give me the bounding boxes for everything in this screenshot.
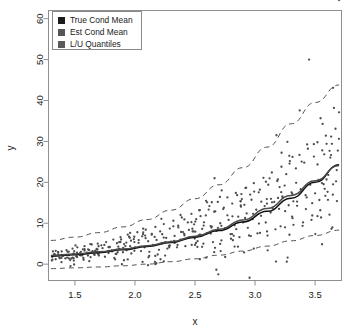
- scatter-point: [89, 243, 91, 245]
- scatter-point: [163, 223, 165, 225]
- scatter-point: [235, 192, 237, 194]
- scatter-point: [271, 171, 273, 173]
- scatter-point: [88, 249, 90, 251]
- scatter-point: [172, 220, 174, 222]
- scatter-point: [266, 202, 268, 204]
- x-tick-label: 2.5: [188, 289, 201, 300]
- scatter-point: [260, 215, 262, 217]
- scatter-point: [122, 251, 124, 253]
- scatter-point: [227, 219, 229, 221]
- scatter-point: [275, 260, 277, 262]
- scatter-point: [233, 235, 235, 237]
- scatter-point: [97, 245, 99, 247]
- scatter-point: [176, 244, 178, 246]
- scatter-point: [137, 242, 139, 244]
- scatter-point: [195, 218, 197, 220]
- scatter-point: [142, 227, 144, 229]
- scatter-point: [71, 247, 73, 249]
- scatter-point: [264, 205, 266, 207]
- scatter-point: [237, 216, 239, 218]
- scatter-point: [133, 250, 135, 252]
- y-tick-label: 40: [34, 95, 45, 106]
- scatter-point: [195, 242, 197, 244]
- y-tick-label: 0: [34, 261, 45, 266]
- scatter-point: [163, 236, 165, 238]
- scatter-point: [141, 235, 143, 237]
- scatter-point: [147, 240, 149, 242]
- scatter-point: [190, 221, 192, 223]
- scatter-point: [119, 236, 121, 238]
- scatter-point: [55, 250, 57, 252]
- x-tick-label: 3.5: [308, 289, 321, 300]
- scatter-point: [321, 243, 323, 245]
- scatter-point: [311, 202, 313, 204]
- scatter-point: [133, 236, 135, 238]
- scatter-point: [337, 149, 339, 151]
- scatter-point: [93, 254, 95, 256]
- scatter-point: [213, 177, 215, 179]
- scatter-point: [318, 199, 320, 201]
- scatter-point: [243, 251, 245, 253]
- scatter-point: [280, 152, 282, 154]
- scatter-point: [325, 143, 327, 145]
- scatter-point: [258, 222, 260, 224]
- x-tick-label: 2.0: [128, 289, 141, 300]
- scatter-point: [166, 247, 168, 249]
- scatter-point: [319, 209, 321, 211]
- scatter-point: [275, 134, 277, 136]
- scatter-point: [338, 138, 340, 140]
- scatter-point: [151, 233, 153, 235]
- scatter-point: [222, 208, 224, 210]
- y-tick-label: 10: [34, 218, 45, 229]
- scatter-point: [100, 244, 102, 246]
- scatter-point: [133, 241, 135, 243]
- scatter-point: [183, 234, 185, 236]
- scatter-point: [123, 259, 125, 261]
- scatter-point: [214, 247, 216, 249]
- scatter-point: [292, 200, 294, 202]
- scatter-point: [208, 205, 210, 207]
- scatter-point: [136, 231, 138, 233]
- scatter-point: [125, 241, 127, 243]
- scatter-point: [231, 233, 233, 235]
- scatter-point: [203, 224, 205, 226]
- scatter-point: [76, 246, 78, 248]
- scatter-point: [320, 216, 322, 218]
- scatter-point: [127, 234, 129, 236]
- scatter-point: [101, 247, 103, 249]
- scatter-point: [127, 258, 129, 260]
- scatter-point: [230, 238, 232, 240]
- scatter-point: [212, 241, 214, 243]
- scatter-point: [336, 200, 338, 202]
- scatter-point: [262, 177, 264, 179]
- scatter-point: [296, 200, 298, 202]
- scatter-point: [154, 226, 156, 228]
- scatter-point: [253, 247, 255, 249]
- scatter-point: [323, 183, 325, 185]
- scatter-point: [299, 109, 301, 111]
- scatter-point: [324, 188, 326, 190]
- scatter-point: [57, 251, 59, 253]
- x-tick-label: 1.5: [68, 289, 81, 300]
- y-tick-label: 30: [34, 136, 45, 147]
- scatter-point: [214, 210, 216, 212]
- scatter-point: [268, 177, 270, 179]
- scatter-point: [245, 187, 247, 189]
- scatter-point: [133, 238, 135, 240]
- scatter-point: [89, 256, 91, 258]
- scatter-point: [255, 209, 257, 211]
- scatter-point: [148, 255, 150, 257]
- scatter-point: [330, 135, 332, 137]
- x-axis-title: x: [193, 316, 198, 327]
- scatter-point: [124, 245, 126, 247]
- scatter-point: [219, 222, 221, 224]
- scatter-point: [295, 167, 297, 169]
- scatter-point: [334, 128, 336, 130]
- scatter-point: [144, 237, 146, 239]
- scatter-point: [128, 236, 130, 238]
- scatter-point: [308, 58, 310, 60]
- plot-panel: [49, 11, 342, 281]
- scatter-point: [328, 213, 330, 215]
- scatter-point: [142, 231, 144, 233]
- scatter-point: [97, 253, 99, 255]
